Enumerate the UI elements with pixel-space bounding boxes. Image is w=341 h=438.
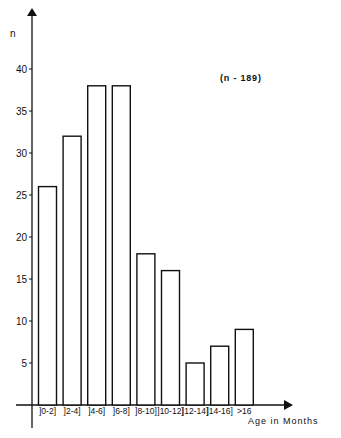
y-tick-label: 25	[16, 190, 28, 201]
y-axis-arrow-icon	[27, 8, 37, 16]
x-tick-label: ]4-6]	[88, 406, 105, 416]
y-tick-label: 30	[16, 148, 28, 159]
bar	[235, 329, 253, 405]
x-tick-label: ]12-14]	[182, 406, 208, 416]
bar	[39, 187, 57, 405]
x-tick-label: ]10-12]	[157, 406, 183, 416]
bar	[211, 346, 229, 405]
y-axis-label: n	[10, 28, 16, 39]
bar-chart: n Age in Months (n - 189) 51015202530354…	[0, 0, 341, 438]
x-tick-label: ]14-16]	[206, 406, 232, 416]
y-tick-label: 40	[16, 64, 28, 75]
x-axis-label: Age in Months	[248, 416, 319, 426]
x-tick-label: ]2-4]	[64, 406, 81, 416]
bars	[39, 86, 254, 405]
x-tick-label: ]8-10]	[135, 406, 157, 416]
bar	[162, 271, 180, 405]
y-tick-label: 20	[16, 232, 28, 243]
sample-size-annotation: (n - 189)	[220, 73, 262, 83]
y-tick-label: 10	[16, 316, 28, 327]
y-tick-label: 5	[21, 358, 27, 369]
x-tick-label: ]0-2]	[39, 406, 56, 416]
bar	[112, 86, 130, 405]
bar	[137, 254, 155, 405]
bar	[186, 363, 204, 405]
x-axis-arrow-icon	[284, 400, 293, 410]
bar	[63, 136, 81, 405]
x-tick-label: ]6-8]	[113, 406, 130, 416]
y-ticks: 510152025303540	[16, 64, 32, 369]
bar	[88, 86, 106, 405]
x-tick-label: >16	[237, 406, 252, 416]
y-tick-label: 35	[16, 106, 28, 117]
y-tick-label: 15	[16, 274, 28, 285]
x-tick-labels: ]0-2]]2-4]]4-6]]6-8]]8-10]]10-12]]12-14]…	[39, 406, 252, 416]
